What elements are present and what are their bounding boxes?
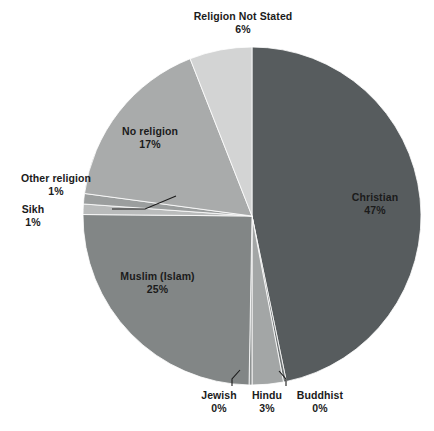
slice-label-value: 1% [6, 185, 106, 198]
slice-label-value: 6% [148, 23, 338, 36]
slice-label-name: Other religion [6, 172, 106, 185]
slice-label-buddhist: Buddhist 0% [285, 389, 355, 415]
slice-label-value: 1% [8, 216, 58, 229]
slice-label-christian: Christian 47% [332, 191, 418, 217]
pie-slice[interactable] [83, 215, 252, 385]
slice-label-name: No religion [95, 125, 205, 138]
slice-label-sikh: Sikh 1% [8, 203, 58, 229]
slice-label-name: Religion Not Stated [148, 10, 338, 23]
slice-label-religion-not-stated: Religion Not Stated 6% [148, 10, 338, 36]
slice-label-name: Christian [332, 191, 418, 204]
pie-chart-figure: Religion Not Stated 6% Christian 47% No … [0, 0, 434, 431]
slice-label-name: Sikh [8, 203, 58, 216]
slice-label-name: Muslim (Islam) [95, 270, 220, 283]
slice-label-other-religion: Other religion 1% [6, 172, 106, 198]
slice-label-value: 47% [332, 204, 418, 217]
slice-label-value: 25% [95, 283, 220, 296]
slice-label-muslim: Muslim (Islam) 25% [95, 270, 220, 296]
slice-label-value: 0% [285, 402, 355, 415]
slice-label-name: Buddhist [285, 389, 355, 402]
slice-label-value: 17% [95, 138, 205, 151]
slice-label-no-religion: No religion 17% [95, 125, 205, 151]
